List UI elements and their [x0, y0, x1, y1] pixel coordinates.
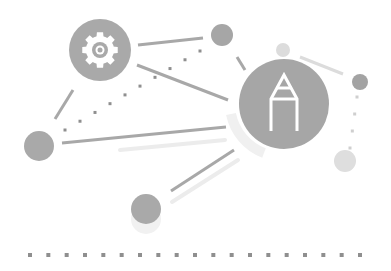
- left-slant-line: [55, 90, 73, 119]
- right-small-node: [352, 74, 368, 90]
- faint-top-node: [276, 43, 290, 57]
- baseline-dots: [28, 253, 362, 257]
- path-dot: [184, 58, 187, 61]
- path-dot: [124, 93, 127, 96]
- path-dot: [199, 50, 202, 53]
- top-to-pencil-line: [237, 57, 245, 70]
- path-dot: [353, 113, 356, 116]
- left-shadow-line: [120, 140, 225, 150]
- right-faint-node: [334, 150, 356, 172]
- baseline-dot: [303, 253, 307, 257]
- baseline-dot: [156, 253, 160, 257]
- gear-hole: [98, 48, 103, 53]
- gear-icon: [82, 32, 117, 67]
- baseline-dot: [266, 253, 270, 257]
- baseline-dot: [358, 253, 362, 257]
- network-illustration: [0, 0, 391, 271]
- baseline-dot: [28, 253, 32, 257]
- baseline-dot: [211, 253, 215, 257]
- path-dot: [79, 120, 82, 123]
- baseline-dot: [340, 253, 344, 257]
- baseline-dot: [65, 253, 69, 257]
- baseline-dot: [248, 253, 252, 257]
- gear-to-pencil-line: [137, 65, 228, 100]
- path-dot: [109, 102, 112, 105]
- path-dot: [64, 129, 67, 132]
- baseline-dot: [193, 253, 197, 257]
- baseline-dot: [101, 253, 105, 257]
- left-node: [24, 131, 54, 161]
- baseline-dot: [138, 253, 142, 257]
- baseline-dot: [120, 253, 124, 257]
- right-dotted-path: [349, 96, 359, 150]
- bottom-shadow-line: [172, 160, 238, 202]
- top-small-node: [211, 24, 233, 46]
- baseline-dot: [175, 253, 179, 257]
- bottom-node: [131, 194, 161, 224]
- path-dot: [169, 67, 172, 70]
- path-dot: [349, 147, 352, 150]
- baseline-dot: [321, 253, 325, 257]
- baseline-dot: [46, 253, 50, 257]
- baseline-dot: [83, 253, 87, 257]
- baseline-dot: [230, 253, 234, 257]
- path-dot: [139, 85, 142, 88]
- path-dot: [351, 130, 354, 133]
- path-dot: [94, 111, 97, 114]
- gear-to-top-line: [138, 38, 203, 45]
- illustration-svg: [0, 0, 391, 271]
- baseline-dot: [285, 253, 289, 257]
- nodes: [24, 19, 368, 224]
- path-dot: [154, 76, 157, 79]
- path-dot: [356, 96, 359, 99]
